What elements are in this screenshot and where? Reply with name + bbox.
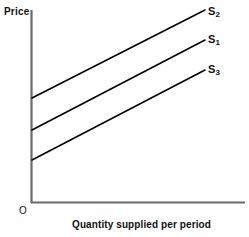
series-label-s2: S2 — [208, 6, 220, 19]
series-label-s1-subscript: 1 — [215, 38, 220, 47]
x-axis-title: Quantity supplied per period — [72, 220, 211, 230]
series-label-s3: S3 — [208, 64, 220, 77]
series-label-s3-subscript: 3 — [215, 68, 220, 77]
origin-label: O — [19, 206, 27, 216]
supply-curves-group — [32, 10, 205, 160]
supply-curve-chart: Price O Quantity supplied per period S2 … — [0, 0, 249, 237]
series-label-s1: S1 — [208, 34, 220, 47]
supply-curve-s3 — [32, 70, 205, 160]
y-axis-title: Price — [4, 7, 29, 17]
series-label-s2-subscript: 2 — [215, 10, 220, 19]
